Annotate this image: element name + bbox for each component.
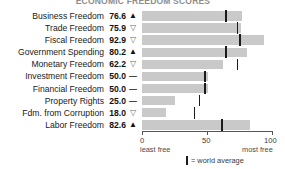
freedom-row: Government Spending80.2▲	[0, 46, 285, 58]
freedom-row: Trade Freedom75.9▽	[0, 22, 285, 34]
freedom-row-value: 92.9	[107, 34, 126, 46]
freedom-bar	[142, 48, 247, 57]
freedom-row-label: Investment Freedom	[0, 70, 107, 82]
freedom-row-label: Business Freedom	[0, 10, 107, 22]
trend-flat-icon: —	[126, 83, 140, 95]
freedom-row: Labor Freedom82.6▲	[0, 119, 285, 131]
freedom-row-value: 75.9	[107, 22, 126, 34]
freedom-row-label: Property Rights	[0, 95, 107, 107]
freedom-row-plot	[142, 58, 273, 70]
freedom-row-value: 62.2	[107, 58, 126, 70]
freedom-row: Monetary Freedom62.2▽	[0, 58, 285, 70]
freedom-bar	[142, 60, 223, 69]
trend-down-icon: ▽	[126, 34, 140, 46]
freedom-bar	[142, 108, 166, 117]
chart-title: ECONOMIC FREEDOM SCORES	[14, 0, 272, 4]
freedom-bar	[142, 72, 208, 81]
freedom-bar	[142, 96, 175, 105]
freedom-row-plot	[142, 107, 273, 119]
legend: = world average	[186, 156, 244, 165]
freedom-bar	[142, 11, 242, 20]
freedom-row-plot	[142, 95, 273, 107]
freedom-row-plot	[142, 70, 273, 82]
most-free-label: most free	[242, 145, 273, 154]
freedom-row-plot	[142, 34, 273, 46]
trend-up-icon: ▲	[126, 46, 140, 58]
axis-label-0: 0	[140, 136, 144, 145]
axis-end-labels: least free most free	[132, 145, 285, 154]
legend-label: = world average	[191, 156, 244, 165]
freedom-bar	[142, 120, 250, 129]
world-average-tick	[237, 59, 239, 71]
freedom-row-value: 50.0	[107, 83, 126, 95]
freedom-row-plot	[142, 46, 273, 58]
freedom-row-plot	[142, 83, 273, 95]
trend-flat-icon: —	[126, 95, 140, 107]
freedom-row-label: Labor Freedom	[0, 119, 107, 131]
freedom-row-value: 50.0	[107, 70, 126, 82]
trend-down-icon: ▽	[126, 107, 140, 119]
trend-down-icon: ▽	[126, 22, 140, 34]
world-average-tick	[204, 71, 206, 83]
world-average-tick	[221, 119, 223, 131]
world-average-tick	[225, 46, 227, 58]
freedom-row: Business Freedom76.6▲	[0, 10, 285, 22]
world-average-tick	[237, 22, 239, 34]
freedom-row-label: Monetary Freedom	[0, 58, 107, 70]
freedom-row: Fiscal Freedom92.9▽	[0, 34, 285, 46]
freedom-row-value: 80.2	[107, 46, 126, 58]
world-average-tick	[194, 107, 196, 119]
freedom-row: Fdm. from Corruption18.0▽	[0, 107, 285, 119]
freedom-bar	[142, 84, 208, 93]
axis-label-50: 50	[202, 136, 210, 145]
axis-tick-labels: 0 50 100	[132, 136, 282, 145]
least-free-label: least free	[140, 145, 170, 154]
freedom-row-label: Fiscal Freedom	[0, 34, 107, 46]
world-average-tick	[239, 34, 241, 46]
world-average-tick	[204, 83, 206, 95]
freedom-bar	[142, 23, 241, 32]
freedom-row-plot	[142, 10, 273, 22]
freedom-row-value: 82.6	[107, 119, 126, 131]
freedom-row-label: Government Spending	[0, 46, 107, 58]
freedom-row-plot	[142, 22, 273, 34]
freedom-row-value: 76.6	[107, 10, 126, 22]
world-average-marker-icon	[186, 156, 188, 165]
world-average-tick	[225, 10, 227, 22]
freedom-row-value: 25.0	[107, 95, 126, 107]
trend-flat-icon: —	[126, 70, 140, 82]
freedom-bar	[142, 35, 264, 44]
trend-up-icon: ▲	[126, 10, 140, 22]
freedom-row-plot	[142, 119, 273, 131]
axis-tick-50	[207, 131, 208, 135]
axis-tick-100	[272, 131, 273, 135]
freedom-row: Property Rights25.0—	[0, 95, 285, 107]
economic-freedom-chart: ECONOMIC FREEDOM SCORES Business Freedom…	[0, 0, 285, 169]
freedom-row-label: Fdm. from Corruption	[0, 107, 107, 119]
freedom-rows: Business Freedom76.6▲Trade Freedom75.9▽F…	[0, 10, 285, 131]
trend-up-icon: ▲	[126, 119, 140, 131]
freedom-row-label: Trade Freedom	[0, 22, 107, 34]
freedom-row-label: Financial Freedom	[0, 83, 107, 95]
axis-label-100: 100	[264, 136, 277, 145]
trend-down-icon: ▽	[126, 58, 140, 70]
freedom-row: Financial Freedom50.0—	[0, 83, 285, 95]
axis-tick-0	[142, 131, 143, 135]
freedom-row: Investment Freedom50.0—	[0, 70, 285, 82]
world-average-tick	[199, 95, 201, 107]
freedom-row-value: 18.0	[107, 107, 126, 119]
